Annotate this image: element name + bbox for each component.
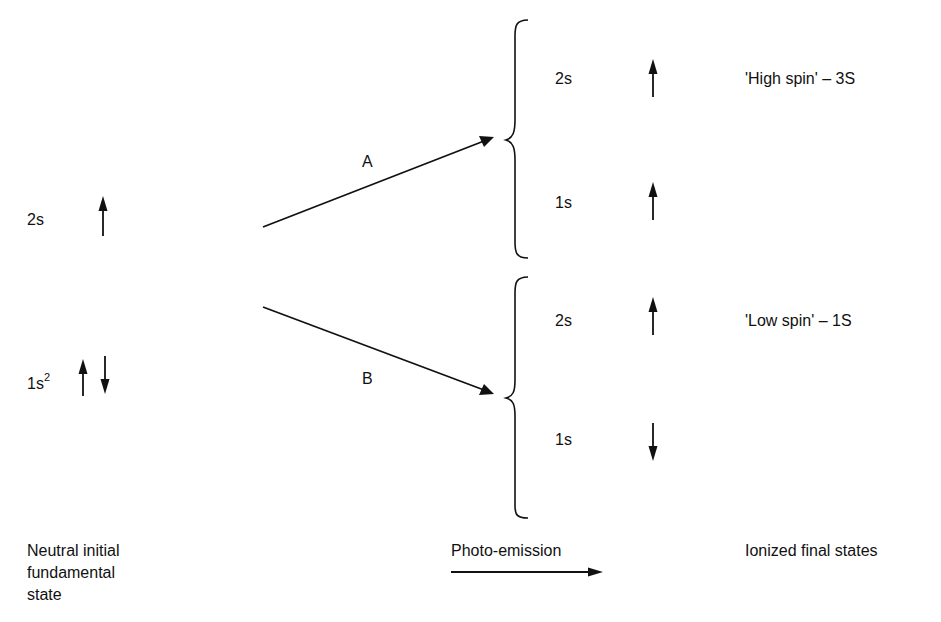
high-spin-2s-spin-up-icon (649, 59, 658, 97)
initial-1s-spin-up-icon (79, 359, 88, 396)
low-spin-1s-spin-down-icon (649, 423, 658, 461)
high-spin-term-label: 'High spin' – 3S (745, 69, 855, 89)
transition-b-arrow (263, 307, 494, 395)
initial-1s-spin-down-icon (101, 356, 110, 394)
final-states-caption: Ionized final states (745, 541, 878, 561)
low-spin-2s-label: 2s (555, 311, 572, 331)
orbital-text: 1s (27, 375, 44, 392)
high-spin-1s-label: 1s (555, 193, 572, 213)
transition-a-arrow (263, 136, 494, 227)
photo-emission-arrow (451, 568, 603, 577)
high-spin-1s-spin-up-icon (649, 182, 658, 220)
caption-line: state (27, 584, 119, 606)
transition-a-label: A (362, 152, 373, 172)
photo-emission-label: Photo-emission (451, 541, 561, 561)
caption-line: fundamental (27, 562, 119, 584)
initial-state-caption: Neutral initial fundamental state (27, 540, 119, 606)
initial-1s-label: 1s2 (27, 369, 50, 394)
low-spin-1s-label: 1s (555, 430, 572, 450)
low-spin-term-label: 'Low spin' – 1S (745, 311, 852, 331)
initial-2s-spin-up-icon (99, 196, 108, 236)
orbital-text: 2s (27, 211, 44, 228)
low-spin-2s-spin-up-icon (649, 297, 658, 335)
initial-2s-label: 2s (27, 210, 44, 230)
transition-b-label: B (362, 369, 373, 389)
high-spin-2s-label: 2s (555, 69, 572, 89)
low-spin-brace (506, 277, 528, 518)
occupancy-superscript: 2 (44, 371, 50, 383)
high-spin-brace (506, 20, 528, 258)
caption-line: Neutral initial (27, 540, 119, 562)
